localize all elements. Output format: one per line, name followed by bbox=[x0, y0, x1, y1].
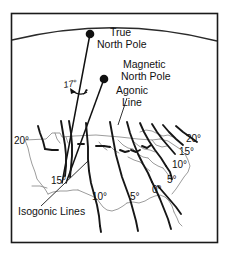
true-north-pole-label-line2: North Pole bbox=[97, 38, 147, 50]
magnetic-north-pole-label-line2: North Pole bbox=[121, 70, 171, 82]
isogonic-label-west-20: 20° bbox=[14, 135, 29, 146]
magnetic-declination-figure: True North Pole Magnetic North Pole Agon… bbox=[0, 0, 230, 261]
isogonic-label-south-10: 10° bbox=[92, 191, 107, 202]
isogonic-label-south-5: 5° bbox=[130, 191, 140, 202]
isogonic-label-east-20: 20° bbox=[186, 133, 201, 144]
true-north-pole-dot bbox=[86, 30, 95, 39]
isogonic-lines-caption: Isogonic Lines bbox=[18, 205, 85, 217]
isogonic-label-east-15: 15° bbox=[179, 146, 194, 157]
agonic-line-label-line2: Line bbox=[122, 96, 142, 108]
isogonic-label-east-10: 10° bbox=[172, 159, 187, 170]
magnetic-north-pole-label-line1: Magnetic bbox=[123, 58, 166, 70]
isogonic-label-east-5: 5° bbox=[167, 174, 177, 185]
true-north-pole-label-line1: True bbox=[110, 26, 131, 38]
isogonic-label-west-15: 15° bbox=[51, 175, 66, 186]
magnetic-north-pole-dot bbox=[100, 75, 109, 84]
agonic-line-label-line1: Agonic bbox=[116, 84, 148, 96]
isogonic-label-center-0: 0° bbox=[152, 184, 162, 195]
